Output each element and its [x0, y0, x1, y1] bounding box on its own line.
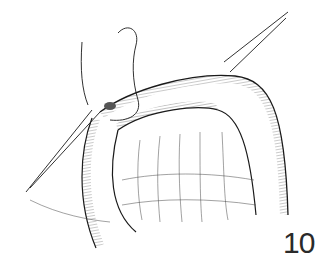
surgical-illustration [0, 0, 329, 275]
needle-site [104, 102, 116, 110]
figure-number: 10 [283, 226, 314, 260]
forceps-right [224, 12, 288, 72]
bowel-left-inner [112, 130, 136, 232]
